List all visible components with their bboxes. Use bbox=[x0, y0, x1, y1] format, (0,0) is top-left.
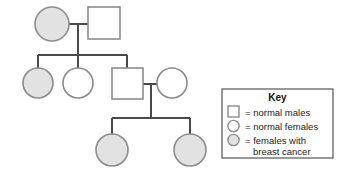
pedigree-canvas: Key = normal males = normal females = fe… bbox=[0, 0, 349, 173]
key-title: Key bbox=[268, 92, 287, 103]
key-symbol-normal-female-circle bbox=[228, 120, 239, 131]
individual-I-1-affected-female[interactable] bbox=[35, 7, 69, 41]
individual-III-2-affected-female[interactable] bbox=[174, 134, 206, 166]
key-legend: Key = normal males = normal females = fe… bbox=[222, 89, 333, 158]
key-label-affected-females-line1: = females with bbox=[245, 135, 306, 146]
individual-II-1-affected-female[interactable] bbox=[23, 68, 53, 98]
individual-II-2-normal-female[interactable] bbox=[63, 68, 93, 98]
key-label-normal-females: = normal females bbox=[245, 121, 318, 132]
key-label-normal-males: = normal males bbox=[245, 107, 310, 118]
key-symbol-normal-male-square bbox=[228, 106, 239, 117]
generation-2 bbox=[23, 68, 187, 99]
individual-I-2-normal-male[interactable] bbox=[88, 7, 120, 39]
generation-3 bbox=[96, 134, 206, 166]
individual-III-1-affected-female[interactable] bbox=[96, 134, 128, 166]
key-symbol-affected-female-circle bbox=[228, 134, 239, 145]
pedigree-diagram: Key = normal males = normal females = fe… bbox=[0, 0, 349, 173]
key-label-affected-females-line2: breast cancer bbox=[253, 146, 311, 157]
individual-II-3-normal-male[interactable] bbox=[112, 68, 143, 99]
individual-II-4-normal-female[interactable] bbox=[157, 68, 187, 98]
